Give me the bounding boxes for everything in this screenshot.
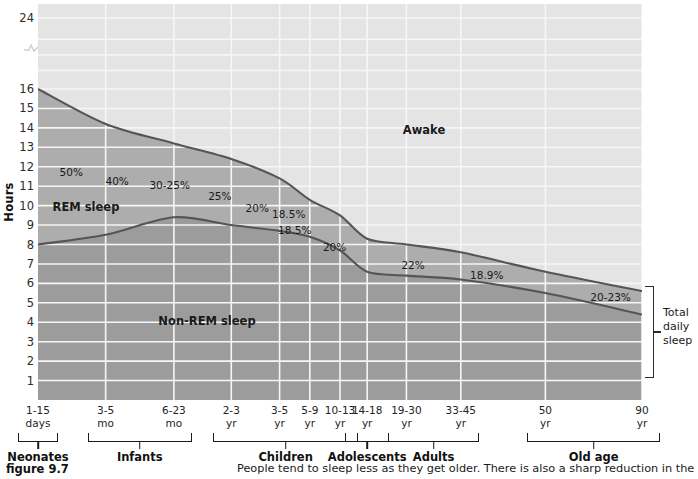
y-axis-tick-9: 9: [27, 220, 34, 231]
percent-annotation: 20%: [246, 202, 269, 214]
percent-annotation: 50%: [60, 166, 83, 178]
percent-annotation: 25%: [208, 190, 231, 202]
y-axis-tick-10: 10: [19, 200, 34, 211]
percent-annotation: 20%: [323, 241, 346, 253]
x-tick-line1: 14-18: [352, 404, 383, 416]
chart-svg: [38, 4, 642, 400]
x-tick-line2: yr: [325, 417, 356, 430]
x-tick-line2: mo: [97, 417, 114, 430]
x-axis-tick-4: 3-5yr: [271, 404, 288, 429]
x-axis-tick-5: 5-9yr: [301, 404, 318, 429]
total-daily-sleep-stem: [654, 331, 661, 333]
x-tick-line1: 2-3: [223, 404, 240, 416]
x-tick-line2: yr: [391, 417, 422, 430]
total-daily-sleep-line2: daily: [663, 320, 692, 334]
y-axis-tick-2: 2: [27, 356, 34, 367]
x-tick-line2: yr: [223, 417, 240, 430]
y-axis-tick-1: 1: [27, 375, 34, 386]
x-tick-line1: 90: [635, 404, 648, 416]
total-daily-sleep-annotation: Total daily sleep: [645, 286, 698, 378]
x-tick-line1: 50: [539, 404, 552, 416]
percent-annotation: 22%: [401, 259, 424, 271]
total-daily-sleep-line1: Total: [663, 306, 692, 320]
x-tick-line1: 6-23: [162, 404, 186, 416]
percent-annotation: 20-23%: [590, 291, 631, 303]
x-axis-tick-1: 3-5mo: [97, 404, 114, 429]
age-group-bracket: [527, 433, 660, 442]
y-axis-tick-7: 7: [27, 258, 34, 269]
y-axis-tick-4: 4: [27, 317, 34, 328]
sleep-chart-figure: Hours 2416151413121110987654321: [0, 0, 698, 479]
x-tick-line2: yr: [271, 417, 288, 430]
x-tick-line2: yr: [446, 417, 477, 430]
y-axis-tick-8: 8: [27, 239, 34, 250]
x-axis-tick-7: 14-18yr: [352, 404, 383, 429]
x-axis-tick-11: 90yr: [635, 404, 648, 429]
percent-annotation: 30-25%: [149, 179, 190, 191]
y-axis-tick-13: 13: [19, 142, 34, 153]
x-tick-line2: yr: [539, 417, 552, 430]
age-group-stem: [366, 442, 368, 449]
total-daily-sleep-line3: sleep: [663, 334, 692, 348]
x-tick-line2: yr: [352, 417, 383, 430]
age-group-stem: [139, 442, 141, 449]
percent-annotation: 18.5%: [272, 208, 305, 220]
x-tick-line2: yr: [301, 417, 318, 430]
y-axis-tick-12: 12: [19, 161, 34, 172]
x-axis-tick-9: 33-45yr: [446, 404, 477, 429]
y-axis-tick-5: 5: [27, 297, 34, 308]
age-group-stem: [285, 442, 287, 449]
total-daily-sleep-bracket: [645, 286, 654, 378]
age-group-bracket: [213, 433, 358, 442]
age-group-bracket: [18, 433, 58, 442]
x-axis-tick-3: 2-3yr: [223, 404, 240, 429]
percent-annotation: 18.9%: [470, 269, 503, 281]
x-tick-line1: 3-5: [271, 404, 288, 416]
figure-number: figure 9.7: [6, 462, 69, 476]
y-axis-tick-3: 3: [27, 336, 34, 347]
region-label-non-rem-sleep: Non-REM sleep: [158, 314, 255, 328]
x-tick-line1: 19-30: [391, 404, 422, 416]
x-tick-line2: mo: [162, 417, 186, 430]
age-group-label: Infants: [117, 450, 163, 464]
y-axis-tick-15: 15: [19, 103, 34, 114]
age-group-stem: [593, 442, 595, 449]
axis-break-icon: [24, 41, 38, 55]
y-axis: Hours 2416151413121110987654321: [0, 0, 38, 400]
y-axis-tick-16: 16: [19, 84, 34, 95]
y-axis-tick-24: 24: [19, 13, 34, 24]
age-group-bracket: [88, 433, 192, 442]
age-group-bracket: [388, 433, 478, 442]
y-axis-tick-14: 14: [19, 122, 34, 133]
age-group-stem: [37, 442, 39, 449]
plot-area: AwakeREM sleepNon-REM sleep50%40%30-25%2…: [38, 4, 642, 400]
x-tick-line1: 33-45: [446, 404, 477, 416]
x-tick-line1: 1-15: [26, 404, 50, 416]
region-label-awake: Awake: [403, 123, 445, 137]
x-tick-line1: 5-9: [301, 404, 318, 416]
x-axis-tick-8: 19-30yr: [391, 404, 422, 429]
y-axis-tick-6: 6: [27, 278, 34, 289]
x-tick-line1: 10-13: [325, 404, 356, 416]
age-group-bracket: [345, 433, 389, 442]
x-tick-line2: yr: [635, 417, 648, 430]
x-axis-tick-2: 6-23mo: [162, 404, 186, 429]
figure-caption: People tend to sleep less as they get ol…: [237, 462, 697, 476]
y-axis-tick-11: 11: [19, 181, 34, 192]
x-tick-line2: days: [26, 417, 51, 430]
x-axis-tick-0: 1-15days: [26, 404, 51, 429]
region-label-rem-sleep: REM sleep: [53, 200, 120, 214]
total-daily-sleep-label: Total daily sleep: [663, 306, 692, 348]
percent-annotation: 40%: [105, 175, 128, 187]
x-axis-tick-6: 10-13yr: [325, 404, 356, 429]
x-axis-tick-10: 50yr: [539, 404, 552, 429]
x-tick-line1: 3-5: [97, 404, 114, 416]
age-group-stem: [433, 442, 435, 449]
percent-annotation: 18.5%: [278, 224, 311, 236]
y-axis-title: Hours: [2, 174, 16, 230]
